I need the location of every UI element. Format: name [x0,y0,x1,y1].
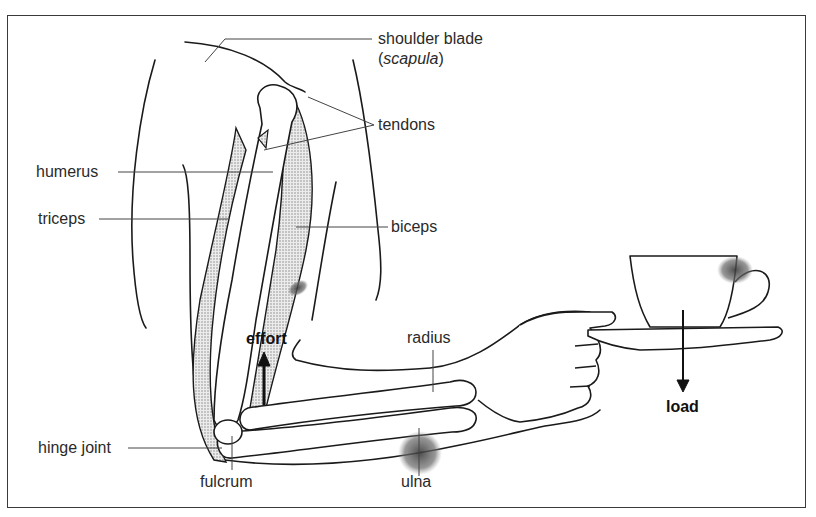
label-ulna: ulna [401,473,431,491]
saucer [588,327,782,350]
label-triceps: triceps [38,210,85,228]
label-scapula: (scapula) [378,50,444,68]
upper-arm-inner-line [312,182,336,320]
label-fulcrum: fulcrum [200,473,252,491]
arm-lever-illustration [0,0,816,517]
stain-ulna [398,431,442,475]
label-load: load [666,398,699,416]
label-radius: radius [407,329,451,347]
leader-tendons-1 [308,97,374,125]
label-tendons: tendons [378,116,435,134]
stain-cup [717,256,753,284]
shoulder-outline [185,42,305,92]
label-biceps: biceps [391,218,437,236]
elbow-joint [214,420,242,444]
label-humerus: humerus [36,163,98,181]
hand [478,312,615,422]
torso-outline-right [353,60,381,300]
label-scapula-italic: scapula [383,50,438,67]
paren-close: ) [438,50,443,67]
label-effort: effort [246,330,287,348]
label-hinge-joint: hinge joint [38,439,111,457]
label-shoulder-blade: shoulder blade [378,30,483,48]
torso-outline-left [132,60,155,328]
